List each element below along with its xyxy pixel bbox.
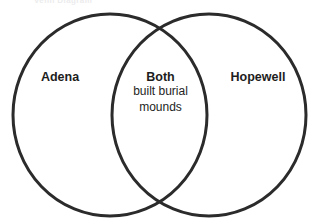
venn-diagram-canvas: Venn Diagram Adena Both built burial mou… [0, 0, 317, 224]
venn-circle-hopewell [112, 14, 306, 216]
venn-label-both: Both built burial mounds [113, 70, 208, 115]
venn-circle-adena [13, 14, 207, 216]
venn-label-adena-title: Adena [12, 70, 108, 84]
venn-label-adena: Adena [12, 70, 108, 84]
venn-label-hopewell: Hopewell [210, 70, 306, 84]
venn-label-both-title: Both [113, 70, 208, 84]
venn-label-both-line-2: mounds [113, 100, 208, 116]
venn-label-both-line-1: built burial [113, 84, 208, 100]
venn-label-hopewell-title: Hopewell [210, 70, 306, 84]
